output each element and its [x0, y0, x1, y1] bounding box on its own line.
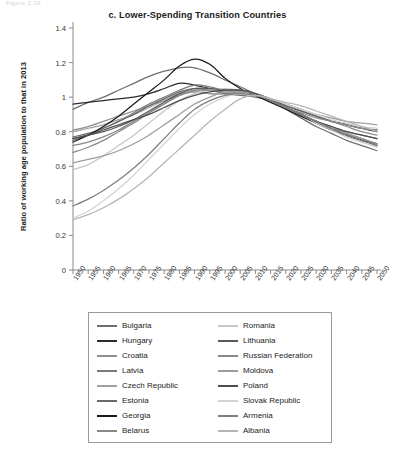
legend-item[interactable]: Czech Republic — [97, 378, 210, 393]
legend-swatch-line-icon — [218, 370, 238, 372]
y-tick-label: 0.8 — [40, 127, 66, 136]
legend-item[interactable]: Moldova — [218, 363, 331, 378]
legend-label: Lithuania — [243, 337, 275, 345]
y-tick-label: 1 — [40, 93, 66, 102]
plot-area: 00.20.40.60.811.21.4 1950195519601965197… — [0, 0, 395, 300]
legend-label: Russian Federation — [243, 352, 312, 360]
legend-swatch-line-icon — [97, 370, 117, 372]
y-tick-label: 1.2 — [40, 58, 66, 67]
legend-swatch-line-icon — [218, 415, 238, 417]
legend-swatch-line-icon — [97, 430, 117, 432]
legend-swatch-line-icon — [97, 355, 117, 357]
legend-swatch-line-icon — [218, 325, 238, 327]
legend-label: Armenia — [243, 412, 273, 420]
legend-label: Georgia — [122, 412, 150, 420]
legend-item[interactable]: Georgia — [97, 408, 210, 423]
legend-label: Moldova — [243, 367, 273, 375]
legend: BulgariaHungaryCroatiaLatviaCzech Republ… — [88, 312, 332, 443]
legend-label: Slovak Republic — [243, 397, 300, 405]
legend-item[interactable]: Lithuania — [218, 333, 331, 348]
legend-label: Czech Republic — [122, 382, 178, 390]
legend-item[interactable]: Estonia — [97, 393, 210, 408]
series-line-czech-republic — [73, 92, 377, 132]
legend-column-1: BulgariaHungaryCroatiaLatviaCzech Republ… — [89, 318, 210, 442]
legend-item[interactable]: Romania — [218, 318, 331, 333]
legend-swatch-line-icon — [218, 340, 238, 342]
y-tick-label: 0.6 — [40, 162, 66, 171]
legend-label: Bulgaria — [122, 322, 151, 330]
plot-svg — [0, 0, 395, 300]
legend-label: Poland — [243, 382, 268, 390]
legend-item[interactable]: Armenia — [218, 408, 331, 423]
y-tick-label: 0 — [40, 266, 66, 275]
y-tick-label: 0.4 — [40, 196, 66, 205]
series-line-romania — [73, 89, 377, 170]
legend-swatch-line-icon — [97, 400, 117, 402]
legend-item[interactable]: Hungary — [97, 333, 210, 348]
legend-swatch-line-icon — [97, 385, 117, 387]
legend-label: Croatia — [122, 352, 148, 360]
legend-swatch-line-icon — [218, 385, 238, 387]
series-line-albania — [73, 95, 377, 219]
legend-label: Albania — [243, 427, 270, 435]
legend-item[interactable]: Russian Federation — [218, 348, 331, 363]
legend-item[interactable]: Bulgaria — [97, 318, 210, 333]
legend-label: Hungary — [122, 337, 152, 345]
legend-column-2: RomaniaLithuaniaRussian FederationMoldov… — [210, 318, 331, 442]
legend-swatch-line-icon — [97, 415, 117, 417]
legend-swatch-line-icon — [97, 325, 117, 327]
legend-label: Latvia — [122, 367, 143, 375]
legend-columns: BulgariaHungaryCroatiaLatviaCzech Republ… — [89, 313, 331, 442]
legend-swatch-line-icon — [97, 340, 117, 342]
legend-swatch-line-icon — [218, 430, 238, 432]
legend-item[interactable]: Belarus — [97, 423, 210, 438]
series-group — [73, 59, 377, 220]
y-tick-label: 0.2 — [40, 231, 66, 240]
legend-item[interactable]: Slovak Republic — [218, 393, 331, 408]
legend-item[interactable]: Albania — [218, 423, 331, 438]
legend-label: Belarus — [122, 427, 149, 435]
legend-item[interactable]: Croatia — [97, 348, 210, 363]
legend-label: Romania — [243, 322, 275, 330]
legend-swatch-line-icon — [218, 355, 238, 357]
legend-item[interactable]: Latvia — [97, 363, 210, 378]
legend-item[interactable]: Poland — [218, 378, 331, 393]
figure-container: Figure 2.10 c. Lower-Spending Transition… — [0, 0, 395, 453]
legend-label: Estonia — [122, 397, 149, 405]
legend-swatch-line-icon — [218, 400, 238, 402]
y-tick-label: 1.4 — [40, 24, 66, 33]
